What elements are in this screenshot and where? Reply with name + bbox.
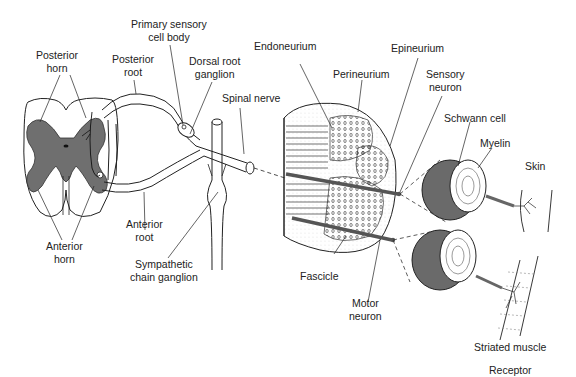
label-receptor: Receptor: [489, 364, 532, 377]
label-striated-muscle: Striated muscle: [474, 341, 546, 354]
myelin-sheath-sensory: [400, 160, 514, 222]
label-line: Anterior: [46, 240, 83, 253]
label-posterior-root: Posterior root: [112, 53, 154, 79]
skin-receptor: [514, 190, 552, 232]
label-line: Motor: [349, 297, 382, 310]
myelin-sheath-motor: [393, 230, 502, 290]
label-line: Anterior: [126, 218, 163, 231]
label-sensory-neuron: Sensory neuron: [426, 68, 465, 94]
spinal-nerve: [196, 146, 285, 178]
label-epineurium: Epineurium: [391, 42, 444, 55]
spinal-cord: [24, 98, 118, 217]
label-line: ganglion: [189, 68, 240, 81]
label-line: root: [126, 231, 163, 244]
nerve-cross-section: [284, 103, 401, 252]
label-line: Sensory: [426, 68, 465, 81]
label-sympathetic-chain-ganglion: Sympathetic chain ganglion: [130, 258, 198, 284]
label-line: Dorsal root: [189, 55, 240, 68]
diagram-drawing: [0, 0, 576, 377]
label-line: chain ganglion: [130, 271, 198, 284]
label-dorsal-root-ganglion: Dorsal root ganglion: [189, 55, 240, 81]
label-line: neuron: [349, 310, 382, 323]
label-fascicle: Fascicle: [300, 270, 339, 283]
label-line: cell body: [131, 31, 207, 44]
label-line: horn: [36, 62, 78, 75]
label-posterior-horn: Posterior horn: [36, 49, 78, 75]
label-line: Sympathetic: [130, 258, 198, 271]
label-anterior-horn: Anterior horn: [46, 240, 83, 266]
label-spinal-nerve: Spinal nerve: [222, 92, 280, 105]
label-motor-neuron: Motor neuron: [349, 297, 382, 323]
dorsal-root-ganglion: [175, 120, 197, 140]
sympathetic-chain: [207, 119, 226, 270]
striated-muscle: [498, 256, 538, 340]
nerve-anatomy-diagram: Posterior horn Posterior root Primary se…: [0, 0, 576, 377]
label-line: Posterior: [36, 49, 78, 62]
label-line: horn: [46, 253, 83, 266]
label-schwann-cell: Schwann cell: [444, 112, 506, 125]
label-primary-sensory-cell-body: Primary sensory cell body: [131, 18, 207, 44]
label-anterior-root: Anterior root: [126, 218, 163, 244]
label-perineurium: Perineurium: [333, 68, 390, 81]
label-line: Primary sensory: [131, 18, 207, 31]
label-line: Posterior: [112, 53, 154, 66]
label-line: neuron: [426, 81, 465, 94]
label-skin: Skin: [525, 160, 545, 173]
label-endoneurium: Endoneurium: [254, 40, 316, 53]
label-myelin: Myelin: [480, 137, 510, 150]
label-line: root: [112, 66, 154, 79]
